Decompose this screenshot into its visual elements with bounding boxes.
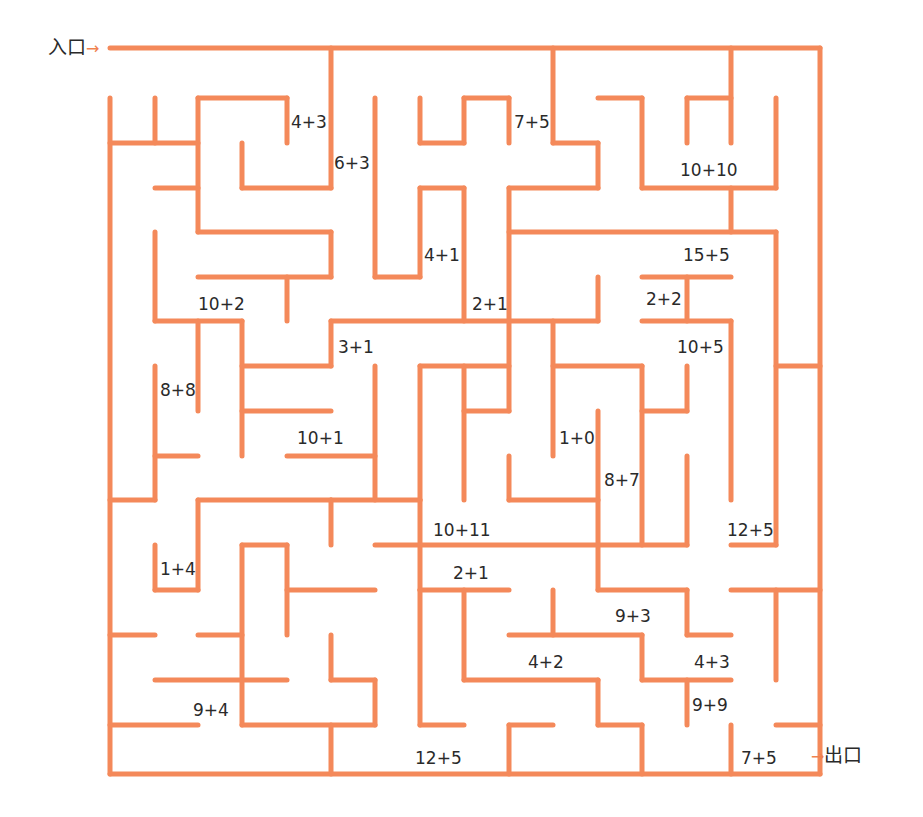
problem-label: 9+3 (615, 608, 651, 625)
problem-label: 1+0 (559, 430, 595, 447)
problem-label: 15+5 (683, 247, 730, 264)
problem-label: 7+5 (741, 750, 777, 767)
problem-label: 10+5 (677, 339, 724, 356)
problem-label: 4+2 (528, 654, 564, 671)
entrance-label: 入口 (48, 36, 86, 58)
problem-label: 9+4 (193, 702, 229, 719)
problem-label: 10+10 (680, 162, 738, 179)
problem-label: 4+3 (694, 654, 730, 671)
problem-label: 10+2 (198, 296, 245, 313)
problem-label: 4+3 (291, 114, 327, 131)
problem-label: 10+1 (297, 430, 344, 447)
problem-label: 8+8 (160, 382, 196, 399)
problem-label: 10+11 (433, 522, 491, 539)
problem-label: 1+4 (160, 561, 196, 578)
problem-label: 3+1 (338, 339, 374, 356)
problem-label: 2+1 (453, 565, 489, 582)
maze-walls (0, 0, 923, 817)
problem-label: 7+5 (514, 114, 550, 131)
problem-label: 12+5 (727, 522, 774, 539)
exit-marker: →出口 (811, 746, 862, 765)
entrance-marker: 入口→ (48, 38, 99, 57)
problem-label: 4+1 (424, 247, 460, 264)
problem-label: 12+5 (415, 750, 462, 767)
exit-arrow-icon: → (811, 747, 824, 766)
problem-label: 6+3 (334, 155, 370, 172)
problem-label: 8+7 (604, 472, 640, 489)
exit-label: 出口 (824, 744, 862, 766)
problem-label: 2+1 (472, 296, 508, 313)
problem-label: 9+9 (692, 697, 728, 714)
entrance-arrow-icon: → (86, 39, 99, 58)
problem-label: 2+2 (646, 291, 682, 308)
